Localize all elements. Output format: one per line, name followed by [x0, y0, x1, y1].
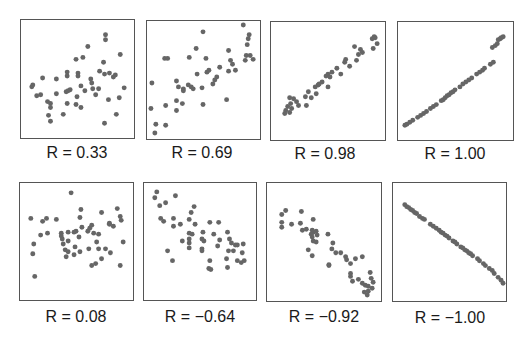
data-point	[283, 208, 288, 213]
data-point	[282, 111, 287, 116]
data-point	[422, 217, 427, 222]
data-point	[121, 240, 126, 245]
data-point	[313, 84, 318, 89]
data-point	[306, 89, 311, 94]
data-point	[148, 106, 153, 111]
data-point	[328, 75, 333, 80]
data-point	[193, 222, 198, 227]
data-point	[371, 280, 376, 285]
data-point	[217, 238, 222, 243]
scatter-plot	[20, 19, 135, 139]
data-point	[113, 73, 118, 78]
data-point	[94, 240, 99, 245]
data-point	[161, 219, 166, 224]
data-point	[224, 97, 229, 102]
data-point	[241, 242, 246, 247]
data-point	[356, 52, 361, 57]
scatter-points	[144, 183, 256, 300]
data-point	[103, 37, 108, 42]
data-point	[46, 113, 51, 118]
data-point	[103, 32, 108, 37]
data-point	[287, 110, 292, 115]
data-point	[72, 230, 77, 235]
data-point	[31, 242, 36, 247]
data-point	[298, 221, 303, 226]
data-point	[226, 248, 231, 253]
data-point	[495, 41, 500, 46]
data-point	[217, 65, 222, 70]
data-point	[201, 239, 206, 244]
data-point	[453, 87, 458, 92]
data-point	[491, 60, 496, 65]
data-point	[190, 232, 195, 237]
data-point	[29, 84, 34, 89]
scatter-plot	[19, 182, 134, 301]
data-point	[99, 210, 104, 215]
correlation-label: R = 1.00	[395, 145, 515, 163]
correlation-label: R = −0.64	[140, 308, 260, 326]
data-point	[74, 57, 79, 62]
data-point	[410, 118, 415, 123]
data-point	[85, 229, 90, 234]
data-point	[235, 242, 240, 247]
data-point	[122, 85, 127, 90]
data-point	[225, 230, 230, 235]
scatter-plot	[146, 20, 261, 140]
data-point	[180, 239, 185, 244]
data-point	[501, 34, 506, 39]
data-point	[28, 216, 33, 221]
data-point	[447, 236, 452, 241]
data-point	[492, 271, 497, 276]
data-point	[102, 72, 107, 77]
data-point	[107, 222, 112, 227]
data-point	[85, 44, 90, 49]
data-point	[240, 250, 245, 255]
data-point	[66, 249, 71, 254]
data-point	[338, 72, 343, 77]
data-point	[171, 216, 176, 221]
data-point	[101, 60, 106, 65]
data-point	[93, 261, 98, 266]
data-point	[243, 58, 248, 63]
data-point	[54, 217, 59, 222]
data-point	[371, 46, 376, 51]
data-point	[152, 131, 157, 136]
data-point	[201, 102, 206, 107]
data-point	[192, 204, 197, 209]
data-point	[189, 210, 194, 215]
data-point	[181, 88, 186, 93]
data-point	[338, 250, 343, 255]
data-point	[279, 225, 284, 230]
scatter-plot	[266, 182, 382, 302]
data-point	[242, 258, 247, 263]
data-point	[326, 263, 331, 268]
correlation-label: R = −1.00	[390, 309, 510, 327]
data-point	[204, 70, 209, 75]
data-point	[317, 81, 322, 86]
data-point	[102, 121, 107, 126]
data-point	[303, 94, 308, 99]
data-point	[225, 265, 230, 270]
data-point	[91, 231, 96, 236]
data-point	[73, 244, 78, 249]
data-point	[483, 263, 488, 268]
data-point	[180, 101, 185, 106]
data-point	[216, 220, 221, 225]
scatter-plot	[143, 182, 257, 301]
data-point	[96, 232, 101, 237]
data-point	[96, 86, 101, 91]
data-point	[82, 88, 87, 93]
data-point	[66, 230, 71, 235]
data-point	[79, 225, 84, 230]
data-point	[66, 88, 71, 93]
data-point	[454, 242, 459, 247]
data-point	[93, 92, 98, 97]
data-point	[90, 86, 95, 91]
data-point	[241, 23, 246, 28]
data-point	[103, 246, 108, 251]
data-point	[342, 60, 347, 65]
data-point	[200, 85, 205, 90]
data-point	[187, 245, 192, 250]
data-point	[299, 209, 304, 214]
data-point	[330, 241, 335, 246]
